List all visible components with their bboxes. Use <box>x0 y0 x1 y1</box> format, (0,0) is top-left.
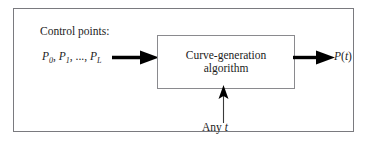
point-p0-symbol: P <box>42 50 49 62</box>
parameter-variable: t <box>225 121 228 133</box>
control-points-list: P0, P1, ..., PL <box>42 50 101 65</box>
input-arrow-icon <box>112 49 159 66</box>
point-pl-subscript: L <box>97 56 101 65</box>
diagram-canvas: Control points: P0, P1, ..., PL Curve-ge… <box>0 0 367 141</box>
diagram-outer-frame: Control points: P0, P1, ..., PL Curve-ge… <box>13 8 354 132</box>
algorithm-box-line-2: algorithm <box>204 62 249 76</box>
point-pl-symbol: P <box>90 50 97 62</box>
point-p1-symbol: P <box>59 50 66 62</box>
control-points-label: Control points: <box>40 25 109 37</box>
output-close-paren: ) <box>348 50 352 62</box>
output-arrow-icon <box>293 49 335 66</box>
parameter-label: Any t <box>202 121 228 133</box>
output-label: P(t) <box>334 50 352 62</box>
parameter-prefix: Any <box>202 121 225 133</box>
parameter-arrow-icon <box>215 85 232 123</box>
algorithm-box-line-1: Curve-generation <box>186 49 266 63</box>
output-symbol: P <box>334 50 341 62</box>
points-separator-2: , ..., <box>70 50 90 62</box>
curve-generation-algorithm-box: Curve-generation algorithm <box>157 35 295 89</box>
